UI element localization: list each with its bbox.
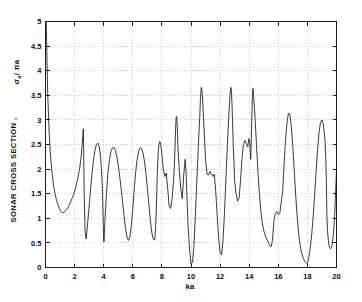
y-axis-symbol-sigma: σa/ πa [12,59,22,84]
x-tick-label: 4 [102,272,107,281]
x-tick-label: 12 [216,272,224,281]
x-tick-label: 6 [131,272,135,281]
sonar-cross-section-curve [46,22,336,265]
y-axis-symbol-suffix: / πa [12,59,21,75]
x-tick-label: 2 [73,272,77,281]
y-tick-label: 2 [37,165,41,174]
x-tick-labels: 02468101214161820 [43,272,340,281]
y-tick-label: 2.5 [31,140,41,149]
y-axis-title: SONAR CROSS SECTION , σa/ πa [9,59,22,222]
y-axis-title-symbol-group: σa/ πa [12,59,22,84]
x-tick-label: 18 [303,272,311,281]
x-tick-label: 8 [160,272,164,281]
sonar-cross-section-figure: 02468101214161820 00.511.522.533.544.55 … [0,0,362,302]
y-tick-labels: 00.511.522.533.544.55 [31,17,42,272]
y-axis-title-text: SONAR CROSS SECTION , [9,117,18,222]
x-axis-title: ka [186,282,195,291]
x-tick-label: 14 [245,272,254,281]
x-tick-label: 10 [187,272,195,281]
y-tick-label: 0 [37,263,41,272]
y-tick-label: 0.5 [31,239,41,248]
y-tick-label: 1.5 [31,189,41,198]
x-tick-label: 0 [43,272,47,281]
x-tick-label: 16 [274,272,282,281]
y-tick-label: 5 [37,17,41,26]
y-tick-label: 3.5 [31,91,41,100]
y-tick-label: 1 [37,214,41,223]
x-tick-label: 20 [332,272,340,281]
chart-canvas: 02468101214161820 00.511.522.533.544.55 … [0,0,362,302]
y-tick-label: 4.5 [31,42,41,51]
y-tick-label: 4 [37,66,42,75]
y-tick-label: 3 [37,116,41,125]
